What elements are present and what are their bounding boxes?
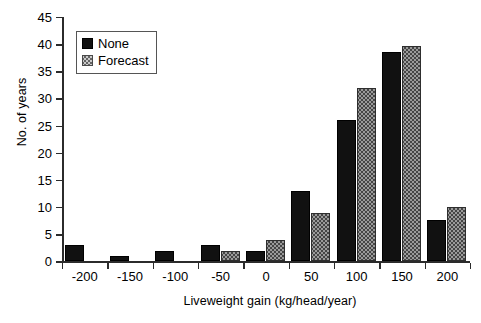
y-tick — [56, 126, 62, 127]
bar — [246, 251, 265, 262]
bar — [65, 245, 84, 261]
bar — [155, 251, 174, 262]
bar — [337, 120, 356, 261]
x-tick-label: -150 — [117, 269, 143, 284]
y-tick — [56, 234, 62, 235]
legend-label: None — [98, 36, 129, 51]
x-tick — [289, 263, 290, 269]
bar — [382, 52, 401, 262]
y-tick-label: 0 — [45, 254, 52, 269]
x-tick-label: 100 — [346, 269, 368, 284]
y-tick-label: 40 — [38, 37, 52, 52]
bar — [266, 240, 285, 262]
y-axis-title: No. of years — [15, 52, 29, 172]
x-axis-line — [62, 261, 470, 263]
y-tick — [56, 17, 62, 18]
x-tick — [425, 263, 426, 269]
x-tick-label: 50 — [304, 269, 318, 284]
y-tick — [56, 153, 62, 154]
y-tick-label: 25 — [38, 118, 52, 133]
y-tick — [56, 71, 62, 72]
y-tick-label: 45 — [38, 10, 52, 25]
y-axis-line — [62, 17, 64, 263]
x-tick-label: -200 — [72, 269, 98, 284]
bar — [221, 251, 240, 262]
bar — [110, 256, 129, 261]
bar — [402, 46, 421, 262]
y-tick-label: 20 — [38, 145, 52, 160]
legend-swatch-icon — [82, 38, 93, 49]
bar — [357, 88, 376, 262]
x-tick — [198, 263, 199, 269]
y-tick-label: 30 — [38, 91, 52, 106]
x-tick-label: 200 — [436, 269, 458, 284]
legend-label: Forecast — [98, 53, 149, 68]
chart-legend: NoneForecast — [76, 31, 157, 74]
x-tick — [379, 263, 380, 269]
x-tick-label: 150 — [391, 269, 413, 284]
y-tick-label: 35 — [38, 64, 52, 79]
bar — [201, 245, 220, 261]
y-tick — [56, 207, 62, 208]
x-tick — [334, 263, 335, 269]
y-tick — [56, 180, 62, 181]
x-tick — [470, 263, 471, 269]
bar — [311, 213, 330, 262]
y-tick-label: 10 — [38, 200, 52, 215]
x-tick — [243, 263, 244, 269]
x-tick — [107, 263, 108, 269]
y-tick-label: 5 — [45, 227, 52, 242]
bar-chart: No. of years Liveweight gain (kg/head/ye… — [0, 0, 481, 323]
x-tick-label: -50 — [211, 269, 230, 284]
bar — [291, 191, 310, 262]
legend-item: None — [82, 35, 149, 52]
x-tick — [62, 263, 63, 269]
x-tick-label: -100 — [162, 269, 188, 284]
bar — [427, 220, 446, 261]
legend-swatch-icon — [82, 55, 93, 66]
legend-item: Forecast — [82, 52, 149, 69]
x-tick-label: 0 — [262, 269, 269, 284]
y-tick — [56, 98, 62, 99]
x-axis-title: Liveweight gain (kg/head/year) — [60, 294, 480, 308]
bar — [447, 207, 466, 261]
y-tick — [56, 44, 62, 45]
x-tick — [153, 263, 154, 269]
y-tick-label: 15 — [38, 172, 52, 187]
